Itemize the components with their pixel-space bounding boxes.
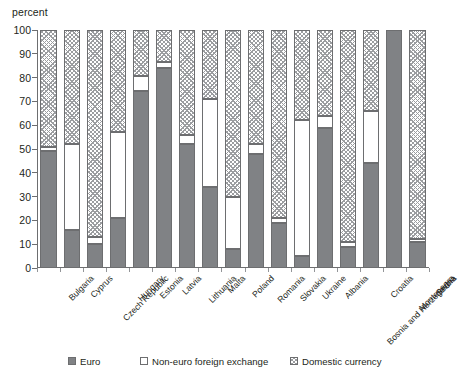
bar-segment-euro[interactable] bbox=[156, 68, 172, 268]
x-axis-category-label: Serbia bbox=[434, 274, 458, 298]
bar-segment-euro[interactable] bbox=[40, 151, 56, 268]
bar-group[interactable] bbox=[409, 30, 425, 268]
bar-group[interactable] bbox=[294, 30, 310, 268]
y-axis-unit-label: percent bbox=[12, 6, 48, 18]
bar-group[interactable] bbox=[363, 30, 379, 268]
bar-group[interactable] bbox=[179, 30, 195, 268]
bar-segment-non-euro-fx[interactable] bbox=[179, 135, 195, 145]
bar-segment-non-euro-fx[interactable] bbox=[271, 218, 287, 223]
bar-group[interactable] bbox=[202, 30, 218, 268]
y-axis-line bbox=[37, 30, 38, 268]
bar-segment-domestic-currency[interactable] bbox=[110, 30, 126, 132]
bar-segment-domestic-currency[interactable] bbox=[64, 30, 80, 144]
y-axis-tick bbox=[32, 220, 37, 221]
bar-segment-euro[interactable] bbox=[317, 128, 333, 268]
x-axis-category-label: Croatia bbox=[389, 274, 415, 300]
y-axis-tick bbox=[32, 196, 37, 197]
bar-segment-domestic-currency[interactable] bbox=[363, 30, 379, 111]
bar-segment-euro[interactable] bbox=[133, 91, 149, 268]
bar-segment-domestic-currency[interactable] bbox=[133, 30, 149, 76]
bar-segment-euro[interactable] bbox=[340, 247, 356, 268]
bar-segment-euro[interactable] bbox=[202, 187, 218, 268]
y-axis-tick bbox=[32, 53, 37, 54]
legend-item-label: Domestic currency bbox=[302, 356, 381, 367]
x-axis-category-label: Albania bbox=[343, 274, 370, 301]
bar-segment-euro[interactable] bbox=[386, 30, 402, 268]
bar-segment-domestic-currency[interactable] bbox=[40, 30, 56, 147]
bar-segment-non-euro-fx[interactable] bbox=[202, 99, 218, 187]
bar-segment-domestic-currency[interactable] bbox=[225, 30, 241, 197]
y-axis-tick-label: 20 bbox=[1, 215, 31, 225]
bar-segment-domestic-currency[interactable] bbox=[156, 30, 172, 62]
y-axis-tick bbox=[32, 244, 37, 245]
bar-segment-euro[interactable] bbox=[248, 154, 264, 268]
bar-segment-euro[interactable] bbox=[363, 163, 379, 268]
bar-group[interactable] bbox=[317, 30, 333, 268]
y-axis-tick-label: 70 bbox=[1, 96, 31, 106]
x-axis-category-label: Poland bbox=[251, 274, 276, 299]
bar-segment-non-euro-fx[interactable] bbox=[225, 197, 241, 249]
bar-group[interactable] bbox=[271, 30, 287, 268]
bar-segment-euro[interactable] bbox=[294, 256, 310, 268]
legend-item-domestic[interactable]: Domestic currency bbox=[290, 356, 381, 367]
bar-group[interactable] bbox=[40, 30, 56, 268]
bar-segment-euro[interactable] bbox=[110, 218, 126, 268]
y-axis-tick-label: 30 bbox=[1, 192, 31, 202]
bar-segment-non-euro-fx[interactable] bbox=[317, 116, 333, 128]
bar-segment-non-euro-fx[interactable] bbox=[156, 62, 172, 68]
hatched-swatch bbox=[290, 357, 298, 365]
white-swatch bbox=[140, 357, 148, 365]
plot-area bbox=[37, 30, 429, 268]
bar-segment-euro[interactable] bbox=[225, 249, 241, 268]
bar-segment-euro[interactable] bbox=[409, 242, 425, 268]
bar-segment-non-euro-fx[interactable] bbox=[133, 76, 149, 90]
bar-segment-domestic-currency[interactable] bbox=[179, 30, 195, 135]
y-axis-tick-label: 0 bbox=[1, 263, 31, 273]
bar-group[interactable] bbox=[340, 30, 356, 268]
y-axis-tick-labels: 0102030405060708090100 bbox=[0, 30, 31, 268]
bar-segment-domestic-currency[interactable] bbox=[248, 30, 264, 144]
y-axis-tick-label: 100 bbox=[1, 25, 31, 35]
bar-segment-non-euro-fx[interactable] bbox=[64, 144, 80, 230]
bar-segment-euro[interactable] bbox=[179, 144, 195, 268]
y-axis-tick-label: 50 bbox=[1, 144, 31, 154]
bar-segment-domestic-currency[interactable] bbox=[294, 30, 310, 120]
bar-segment-non-euro-fx[interactable] bbox=[294, 120, 310, 256]
bar-group[interactable] bbox=[386, 30, 402, 268]
y-axis-tick-label: 60 bbox=[1, 120, 31, 130]
y-axis-tick-label: 90 bbox=[1, 49, 31, 59]
bar-group[interactable] bbox=[110, 30, 126, 268]
bar-segment-domestic-currency[interactable] bbox=[409, 30, 425, 239]
x-axis-category-labels: BulgariaCyprusCzech RepublicHungaryEston… bbox=[37, 270, 429, 340]
legend-item-nonEuro[interactable]: Non-euro foreign exchange bbox=[140, 356, 268, 367]
y-axis-tick bbox=[32, 30, 37, 31]
bar-segment-domestic-currency[interactable] bbox=[87, 30, 103, 237]
bar-group[interactable] bbox=[225, 30, 241, 268]
bar-segment-non-euro-fx[interactable] bbox=[40, 147, 56, 152]
bar-segment-domestic-currency[interactable] bbox=[202, 30, 218, 99]
bar-segment-non-euro-fx[interactable] bbox=[110, 132, 126, 218]
bar-segment-euro[interactable] bbox=[87, 244, 103, 268]
bar-segment-non-euro-fx[interactable] bbox=[248, 144, 264, 154]
bar-segment-euro[interactable] bbox=[64, 230, 80, 268]
bar-group[interactable] bbox=[156, 30, 172, 268]
bar-group[interactable] bbox=[248, 30, 264, 268]
bar-segment-non-euro-fx[interactable] bbox=[363, 111, 379, 163]
bar-group[interactable] bbox=[133, 30, 149, 268]
bar-segment-domestic-currency[interactable] bbox=[271, 30, 287, 218]
bar-segment-euro[interactable] bbox=[271, 223, 287, 268]
bar-segment-domestic-currency[interactable] bbox=[340, 30, 356, 242]
bar-segment-non-euro-fx[interactable] bbox=[340, 242, 356, 247]
bar-segment-non-euro-fx[interactable] bbox=[87, 237, 103, 244]
legend-item-euro[interactable]: Euro bbox=[68, 356, 100, 367]
bar-segment-non-euro-fx[interactable] bbox=[409, 239, 425, 241]
bar-segment-domestic-currency[interactable] bbox=[317, 30, 333, 116]
chart-legend: EuroNon-euro foreign exchangeDomestic cu… bbox=[0, 353, 439, 369]
y-axis-tick-label: 10 bbox=[1, 239, 31, 249]
bar-group[interactable] bbox=[87, 30, 103, 268]
bar-group[interactable] bbox=[64, 30, 80, 268]
y-axis-tick-label: 40 bbox=[1, 168, 31, 178]
legend-item-label: Euro bbox=[80, 356, 100, 367]
y-axis-tick bbox=[32, 149, 37, 150]
